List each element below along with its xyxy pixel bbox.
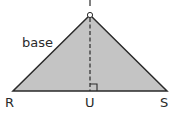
triangle-diagram: base R U S xyxy=(0,0,175,117)
point-label-u: U xyxy=(85,95,95,110)
vertex-label-s: S xyxy=(160,95,168,110)
side-label-base: base xyxy=(22,35,53,50)
apex-marker xyxy=(87,12,92,17)
vertex-label-r: R xyxy=(5,95,14,110)
